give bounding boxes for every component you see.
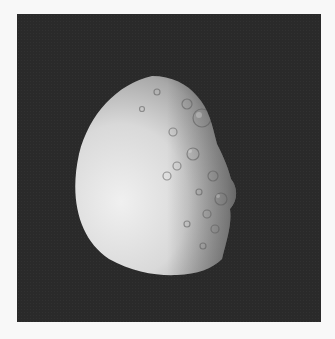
moon-image	[17, 14, 321, 322]
moon-icon	[17, 14, 321, 322]
photo-frame	[17, 14, 321, 322]
